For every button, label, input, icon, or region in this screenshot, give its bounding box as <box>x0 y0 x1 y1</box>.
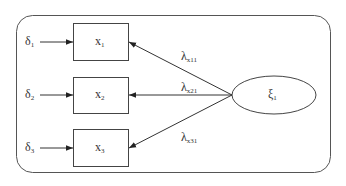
latent-label-xi1: ξ1 <box>268 88 277 102</box>
error-label-delta3: δ3 <box>25 141 34 155</box>
loading-label-x21: λx21 <box>181 81 197 95</box>
indicator-label-x2: x2 <box>95 88 105 102</box>
measurement-model-diagram <box>0 0 346 186</box>
indicator-label-x1: x1 <box>95 35 105 49</box>
error-label-delta1: δ1 <box>25 35 34 49</box>
loading-label-x31: λx31 <box>181 131 197 145</box>
error-label-delta2: δ2 <box>25 88 34 102</box>
loading-label-x11: λx11 <box>181 50 197 64</box>
indicator-label-x3: x3 <box>95 141 105 155</box>
